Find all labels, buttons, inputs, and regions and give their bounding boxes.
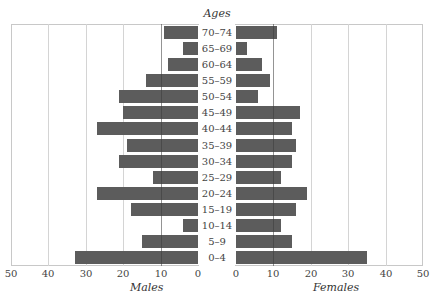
tick-females-50: 50 xyxy=(413,268,433,279)
bar-females-20–24 xyxy=(236,187,307,200)
bar-females-15–19 xyxy=(236,203,296,216)
tick-females-20: 20 xyxy=(301,268,321,279)
gridline-males-10 xyxy=(161,24,162,266)
tick-males-50: 50 xyxy=(1,268,21,279)
tick-females-30: 30 xyxy=(338,268,358,279)
bar-females-65–69 xyxy=(236,42,247,55)
bar-females-70–74 xyxy=(236,26,277,39)
gridline-females-30 xyxy=(348,24,349,266)
gridline-males-40 xyxy=(48,24,49,266)
population-pyramid-chart: Ages 70–7465–6960–6455–5950–5445–4940–44… xyxy=(0,0,436,297)
bar-males-65–69 xyxy=(183,42,198,55)
age-label: 20–24 xyxy=(199,187,235,200)
age-label: 55–59 xyxy=(199,74,235,87)
bar-females-45–49 xyxy=(236,106,300,119)
tick-males-0: 0 xyxy=(188,268,208,279)
gridline-females-10 xyxy=(273,24,274,266)
bar-males-10–14 xyxy=(183,219,198,232)
bar-females-30–34 xyxy=(236,155,292,168)
bar-females-25–29 xyxy=(236,171,281,184)
bar-males-40–44 xyxy=(97,122,198,135)
bar-males-0–4 xyxy=(75,251,198,264)
bar-females-55–59 xyxy=(236,74,270,87)
age-label: 35–39 xyxy=(199,139,235,152)
age-label: 50–54 xyxy=(199,90,235,103)
bar-females-5–9 xyxy=(236,235,292,248)
males-axis-title: Males xyxy=(130,281,164,294)
age-label: 25–29 xyxy=(199,171,235,184)
gridline-females-20 xyxy=(311,24,312,266)
females-axis-title: Females xyxy=(313,281,359,294)
bar-females-50–54 xyxy=(236,90,258,103)
bar-males-70–74 xyxy=(164,26,198,39)
bar-females-40–44 xyxy=(236,122,292,135)
bar-males-35–39 xyxy=(127,139,198,152)
tick-males-20: 20 xyxy=(113,268,133,279)
gridline-males-20 xyxy=(123,24,124,266)
chart-title: Ages xyxy=(198,7,236,20)
bar-males-15–19 xyxy=(131,203,198,216)
bar-females-10–14 xyxy=(236,219,281,232)
tick-males-10: 10 xyxy=(151,268,171,279)
tick-females-40: 40 xyxy=(376,268,396,279)
age-label: 45–49 xyxy=(199,106,235,119)
age-label: 65–69 xyxy=(199,42,235,55)
bar-males-50–54 xyxy=(119,90,198,103)
age-label: 70–74 xyxy=(199,26,235,39)
tick-males-40: 40 xyxy=(38,268,58,279)
age-label: 15–19 xyxy=(199,203,235,216)
bar-males-30–34 xyxy=(119,155,198,168)
age-label: 30–34 xyxy=(199,155,235,168)
tick-males-30: 30 xyxy=(76,268,96,279)
bar-males-60–64 xyxy=(168,58,198,71)
tick-females-0: 0 xyxy=(226,268,246,279)
bar-males-55–59 xyxy=(146,74,198,87)
tick-females-10: 10 xyxy=(263,268,283,279)
bar-males-25–29 xyxy=(153,171,198,184)
gridline-females-40 xyxy=(386,24,387,266)
bar-females-35–39 xyxy=(236,139,296,152)
age-label: 0–4 xyxy=(199,251,235,264)
bar-males-5–9 xyxy=(142,235,198,248)
age-label: 40–44 xyxy=(199,122,235,135)
age-label: 60–64 xyxy=(199,58,235,71)
gridline-males-30 xyxy=(86,24,87,266)
age-label: 5–9 xyxy=(199,235,235,248)
age-label: 10–14 xyxy=(199,219,235,232)
bar-males-20–24 xyxy=(97,187,198,200)
bar-females-0–4 xyxy=(236,251,367,264)
bar-females-60–64 xyxy=(236,58,262,71)
